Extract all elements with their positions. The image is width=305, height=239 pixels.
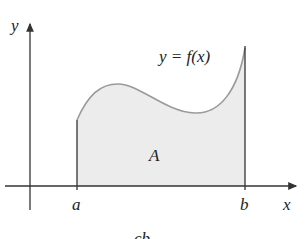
right-bound-label: b bbox=[240, 195, 249, 214]
area-label: A bbox=[148, 146, 160, 165]
y-axis-label: y bbox=[9, 16, 19, 35]
x-axis-label: x bbox=[282, 195, 291, 214]
caption-fragment: cb bbox=[134, 229, 150, 239]
shaded-area-region bbox=[77, 48, 245, 186]
curve-label: y = f(x) bbox=[157, 47, 210, 66]
area-under-curve-diagram: y x y = f(x) A a b cb bbox=[0, 0, 305, 239]
left-bound-label: a bbox=[72, 195, 81, 214]
